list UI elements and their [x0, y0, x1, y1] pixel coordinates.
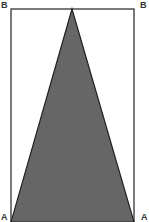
label-bottom-left-a: A [1, 213, 8, 222]
label-bottom-right-a: A [141, 213, 148, 222]
label-top-right-b: B [140, 1, 147, 10]
label-top-left-b: B [1, 1, 8, 10]
diagram-canvas [0, 0, 149, 222]
shaded-triangle [11, 9, 134, 222]
